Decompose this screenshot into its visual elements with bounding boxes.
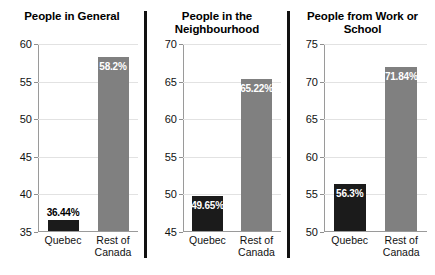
x-axis-line xyxy=(183,231,281,232)
y-axis-tick-label: 75 xyxy=(306,38,318,50)
y-axis-tick-label: 60 xyxy=(306,151,318,163)
y-axis-tick xyxy=(320,119,324,120)
panel-title: People in General xyxy=(0,10,144,23)
bar-value-label: 65.22% xyxy=(240,83,273,94)
y-axis-tick xyxy=(320,232,324,233)
y-axis-tick-label: 50 xyxy=(20,113,32,125)
chart-panel-people-from-work-or-school: People from Work or School 505560657075 … xyxy=(290,0,435,275)
y-axis-tick-label: 50 xyxy=(306,226,318,238)
bar-value-label: 71.84% xyxy=(385,71,418,82)
x-axis-line xyxy=(324,231,427,232)
plot-area: 455055606570 49.65%Quebec65.22%Rest of C… xyxy=(183,44,281,232)
y-axis-tick-label: 45 xyxy=(20,151,32,163)
gridline xyxy=(183,44,281,45)
y-axis-tick xyxy=(320,44,324,45)
chart-panel-people-in-general: People in General 354045505560 36.44%Que… xyxy=(0,0,144,275)
y-axis-tick-label: 35 xyxy=(20,226,32,238)
bar-value-label: 49.65% xyxy=(191,200,224,211)
y-axis-tick xyxy=(179,194,183,195)
bar: 36.44%Quebec xyxy=(48,220,79,231)
y-axis-tick-label: 55 xyxy=(165,151,177,163)
gridline xyxy=(38,44,138,45)
bar-value-label: 56.3% xyxy=(336,188,363,199)
y-axis-tick xyxy=(179,44,183,45)
y-axis-tick xyxy=(34,82,38,83)
y-axis-tick xyxy=(34,44,38,45)
y-axis-tick xyxy=(34,119,38,120)
bar-value-label: 36.44% xyxy=(47,207,80,218)
y-axis-line xyxy=(324,44,325,232)
y-axis-tick-label: 60 xyxy=(20,38,32,50)
x-axis-category-label: Rest of Canada xyxy=(383,235,420,258)
y-axis-tick xyxy=(34,194,38,195)
y-axis-tick-label: 65 xyxy=(306,113,318,125)
bar: 71.84%Rest of Canada xyxy=(385,67,417,231)
x-axis-category-label: Quebec xyxy=(189,235,226,247)
y-axis-tick-label: 60 xyxy=(165,113,177,125)
chart-panel-people-in-the-neighbourhood: People in the Neighbourhood 455055606570… xyxy=(147,0,287,275)
multi-panel-bar-chart: People in General 354045505560 36.44%Que… xyxy=(0,0,435,275)
x-axis-line xyxy=(38,231,138,232)
y-axis-tick xyxy=(179,157,183,158)
y-axis-tick-label: 65 xyxy=(165,76,177,88)
y-axis-tick xyxy=(34,157,38,158)
y-axis-tick xyxy=(320,157,324,158)
bar: 58.2%Rest of Canada xyxy=(98,57,129,231)
y-axis-tick-label: 50 xyxy=(165,188,177,200)
y-axis-tick xyxy=(34,232,38,233)
bar: 65.22%Rest of Canada xyxy=(241,79,271,231)
y-axis-tick-label: 70 xyxy=(306,76,318,88)
gridline xyxy=(324,44,427,45)
y-axis-tick xyxy=(179,82,183,83)
y-axis-tick-label: 55 xyxy=(20,76,32,88)
x-axis-category-label: Quebec xyxy=(331,235,368,247)
y-axis-tick xyxy=(320,82,324,83)
y-axis-line xyxy=(38,44,39,232)
x-axis-category-label: Rest of Canada xyxy=(95,235,132,258)
x-axis-category-label: Rest of Canada xyxy=(238,235,275,258)
plot-area: 354045505560 36.44%Quebec58.2%Rest of Ca… xyxy=(38,44,138,232)
y-axis-tick-label: 55 xyxy=(306,188,318,200)
y-axis-tick-label: 40 xyxy=(20,188,32,200)
y-axis-line xyxy=(183,44,184,232)
panel-title: People in the Neighbourhood xyxy=(147,10,287,35)
y-axis-tick xyxy=(179,119,183,120)
y-axis-tick-label: 45 xyxy=(165,226,177,238)
y-axis-tick xyxy=(320,194,324,195)
bar-value-label: 58.2% xyxy=(99,61,126,72)
bar: 49.65%Quebec xyxy=(192,196,222,231)
plot-area: 505560657075 56.3%Quebec71.84%Rest of Ca… xyxy=(324,44,427,232)
y-axis-tick-label: 70 xyxy=(165,38,177,50)
y-axis-tick xyxy=(179,232,183,233)
panel-title: People from Work or School xyxy=(290,10,435,35)
x-axis-category-label: Quebec xyxy=(45,235,82,247)
bar: 56.3%Quebec xyxy=(334,184,366,231)
